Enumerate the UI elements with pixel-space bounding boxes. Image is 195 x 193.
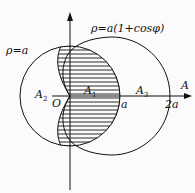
region-a1-label: A1 [84, 85, 96, 99]
cardioid-label: ρ=a(1+cosφ) [91, 23, 164, 34]
circle-label: ρ=a [6, 45, 28, 56]
region-a2-label: A2 [35, 89, 47, 103]
polar-area-diagram: ρ=a(1+cosφ) ρ=a A1 A2 A3 O a 2a A [0, 0, 195, 193]
tick-a-label: a [121, 99, 128, 110]
axis-end-label: A [181, 80, 189, 91]
polar-axis-arrow-icon [184, 93, 192, 99]
region-a3-label: A3 [136, 85, 148, 99]
vertical-axis-arrow-icon [67, 12, 73, 21]
tick-2a-label: 2a [165, 99, 179, 110]
origin-label: O [52, 98, 61, 109]
